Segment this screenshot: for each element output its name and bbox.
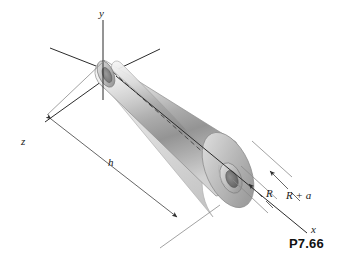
figure-number: P7.66	[289, 236, 324, 251]
dimension-label-h: h	[108, 156, 114, 168]
negative-x-axis-stub	[50, 48, 96, 66]
figure-container: h R R + a y z x P7.66	[0, 0, 337, 259]
dimension-label-R: R	[265, 187, 273, 199]
dimension-label-R-plus-a: R + a	[285, 189, 312, 201]
figure-illustration: h R R + a y z x P7.66	[0, 0, 337, 259]
h-extension-line-start	[47, 60, 105, 115]
radius-extension-outer	[252, 141, 292, 177]
axis-label-z: z	[20, 135, 26, 147]
axis-label-x: x	[310, 223, 316, 235]
h-extension-line-end	[160, 205, 220, 248]
x-axis-line	[116, 76, 307, 233]
axis-label-y: y	[98, 7, 104, 19]
